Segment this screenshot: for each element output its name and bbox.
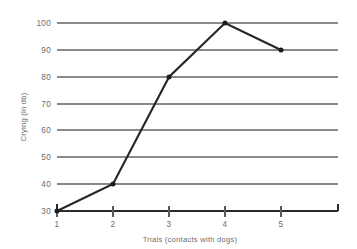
ytick-label-60: 60 [41, 126, 51, 135]
xtick-label-1: 1 [55, 220, 60, 229]
xtick-label-3: 3 [167, 220, 172, 229]
data-point-1 [55, 209, 60, 214]
data-point-5 [279, 48, 284, 53]
xtick-label-5: 5 [279, 220, 284, 229]
x-axis-title: Trials (contacts with dogs) [143, 235, 238, 244]
ytick-label-30: 30 [41, 207, 51, 216]
axes-group [57, 204, 338, 211]
data-point-3 [167, 75, 172, 80]
y-axis-tick-labels: 100 90 80 70 60 50 40 30 [36, 19, 51, 216]
ytick-label-70: 70 [41, 100, 51, 109]
line-chart: 100 90 80 70 60 50 40 30 1 2 3 4 5 [0, 0, 357, 249]
ytick-label-40: 40 [41, 180, 51, 189]
ytick-label-90: 90 [41, 46, 51, 55]
xtick-label-2: 2 [111, 220, 116, 229]
ytick-label-80: 80 [41, 73, 51, 82]
data-point-4 [223, 21, 228, 26]
gridlines-group [57, 23, 338, 184]
ytick-label-50: 50 [41, 153, 51, 162]
y-axis-title: Crying (in db) [19, 92, 28, 141]
series-line-crying [57, 23, 281, 211]
xtick-label-4: 4 [223, 220, 228, 229]
ytick-label-100: 100 [36, 19, 51, 28]
chart-canvas: 100 90 80 70 60 50 40 30 1 2 3 4 5 [0, 0, 357, 249]
x-axis-tick-labels: 1 2 3 4 5 [55, 220, 284, 229]
data-point-2 [111, 182, 116, 187]
